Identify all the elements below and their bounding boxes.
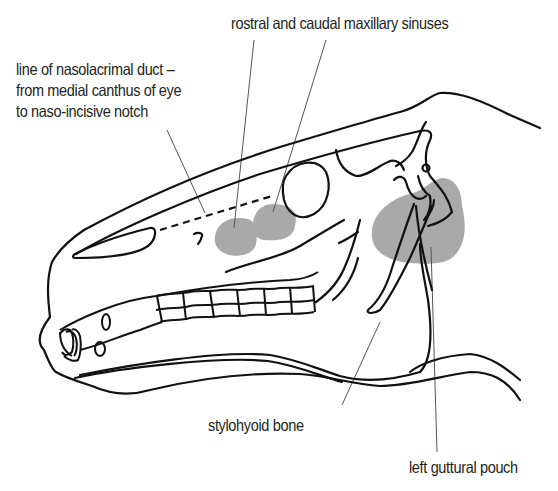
muzzle-lower-outline: [40, 317, 520, 400]
horse-head-diagram: line of nasolacrimal duct – from medial …: [0, 0, 558, 491]
mandible-lower-edge: [80, 354, 420, 380]
label-guttural-pouch: left guttural pouch: [409, 457, 518, 478]
infraorbital-foramen: [194, 233, 202, 244]
tooth-row-bottom: [160, 312, 314, 322]
label-nasolacrimal-line2: from medial canthus of eye: [16, 80, 181, 101]
face-profile-outer: [48, 93, 540, 317]
lower-dental-arch: [80, 322, 162, 350]
head-outline: [40, 93, 540, 400]
zygomatic-arch: [336, 150, 404, 176]
leader-guttural-pouch: [431, 247, 437, 452]
label-nasolacrimal-line1: line of nasolacrimal duct –: [16, 59, 181, 80]
upper-canine: [102, 314, 110, 330]
upper-dental-arch: [60, 272, 318, 330]
temporal-line: [396, 122, 426, 166]
rostral-maxillary-sinus: [215, 218, 257, 256]
label-maxillary-sinuses: rostral and caudal maxillary sinuses: [231, 13, 448, 34]
leader-rostral-sinus: [234, 40, 254, 228]
leader-stylohyoid: [342, 322, 380, 405]
label-nasolacrimal-line3: to naso-incisive notch: [16, 101, 181, 122]
leader-caudal-sinus: [273, 40, 326, 212]
label-stylohyoid-bone: stylohyoid bone: [208, 415, 304, 436]
label-nasolacrimal-duct: line of nasolacrimal duct – from medial …: [16, 59, 181, 122]
cheek-teeth: [60, 272, 318, 361]
nasal-notch: [73, 228, 155, 258]
